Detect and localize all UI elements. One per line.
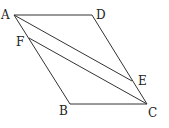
segment-AE [14, 15, 132, 81]
label-D: D [96, 8, 106, 22]
label-A: A [0, 8, 10, 22]
label-B: B [59, 104, 68, 118]
label-C: C [148, 106, 157, 120]
segment-FC [29, 38, 147, 104]
segment-BA [14, 15, 70, 104]
segment-DC [92, 15, 147, 104]
geometry-diagram: A D F E B C [0, 0, 169, 128]
label-E: E [138, 74, 147, 88]
label-F: F [16, 35, 24, 49]
